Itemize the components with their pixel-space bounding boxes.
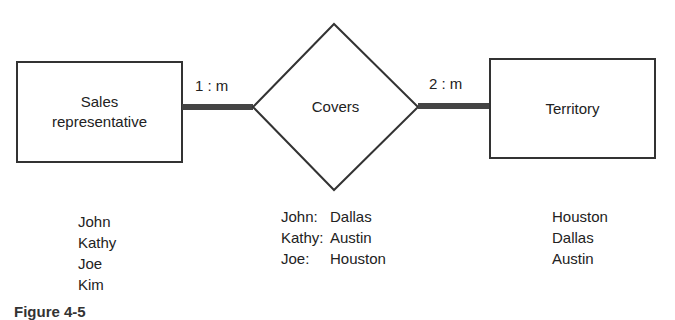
mapping-rep: Kathy: [281, 227, 330, 248]
sales-rep-label-line1: Sales [52, 92, 147, 112]
sales-representative-label: Sales representative [17, 62, 182, 162]
left-cardinality-label: 1 : m [195, 77, 228, 94]
territory-label: Territory [490, 59, 655, 158]
list-item: Kathy [78, 232, 116, 253]
covers-label: Covers [253, 95, 418, 119]
list-item: Houston [552, 206, 608, 227]
list-item: John [78, 211, 116, 232]
mapping-territory: Dallas [330, 206, 372, 227]
sales-rep-label-line2: representative [52, 112, 147, 132]
list-item: Kim [78, 274, 116, 295]
mapping-rep: Joe: [281, 248, 330, 269]
territory-instance-list: Houston Dallas Austin [552, 206, 608, 269]
list-item: Dallas [552, 227, 608, 248]
mapping-rep: John: [281, 206, 330, 227]
right-cardinality-label: 2 : m [429, 75, 462, 92]
mapping-row: Joe: Houston [281, 248, 386, 269]
covers-instance-list: John: Dallas Kathy: Austin Joe: Houston [281, 206, 386, 269]
list-item: Joe [78, 253, 116, 274]
list-item: Austin [552, 248, 608, 269]
mapping-territory: Houston [330, 248, 386, 269]
mapping-territory: Austin [330, 227, 372, 248]
sales-rep-instance-list: John Kathy Joe Kim [78, 211, 116, 295]
figure-caption: Figure 4-5 [14, 303, 86, 320]
mapping-row: Kathy: Austin [281, 227, 386, 248]
mapping-row: John: Dallas [281, 206, 386, 227]
